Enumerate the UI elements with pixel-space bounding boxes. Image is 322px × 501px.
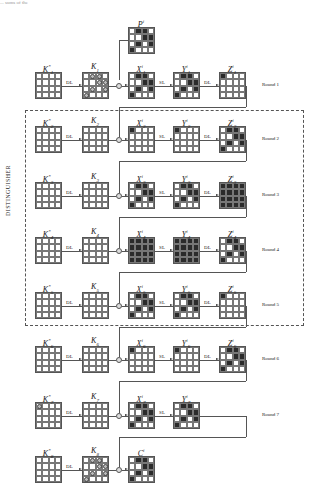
- grid-cell: [193, 202, 199, 208]
- grid-cell: [193, 146, 199, 152]
- y-label-4: Yi4: [171, 228, 201, 242]
- x-label-4: Xi4: [126, 228, 156, 242]
- grid-cell: [193, 312, 199, 318]
- grid-cell: [148, 92, 154, 98]
- round-label-3: Round 3: [262, 192, 279, 197]
- k-label-7: K7: [80, 393, 110, 405]
- grid-cell: [239, 257, 245, 263]
- k-grid-3: [82, 182, 109, 209]
- x-label-1: Xi1: [126, 63, 156, 77]
- kstar-label-5: K*5: [33, 283, 63, 297]
- kstar-label-2: K*2: [33, 117, 63, 131]
- feedback-line: [119, 327, 246, 328]
- ciphertext-label: Ci: [126, 447, 156, 458]
- dl-op-label: DL: [204, 300, 211, 305]
- k-label-2: K2: [80, 117, 110, 129]
- grid-cell: [102, 422, 108, 428]
- feedback-line: [119, 272, 246, 273]
- kstar-label-8: K*8: [33, 447, 63, 461]
- feedback-line: [246, 196, 247, 218]
- feedback-line: [119, 107, 120, 137]
- feedback-line: [119, 437, 120, 467]
- feedback-line: [119, 217, 120, 248]
- sl-op-label: SL: [159, 134, 165, 139]
- grid-cell: [148, 476, 154, 482]
- x-label-2: Xi2: [126, 117, 156, 131]
- plaintext-grid: [128, 27, 155, 54]
- grid-cell: [55, 422, 61, 428]
- grid-cell: [55, 202, 61, 208]
- key-line: [109, 196, 116, 197]
- y-label-6: Yi6: [171, 337, 201, 351]
- dl-op-label: DL: [66, 354, 73, 359]
- feedback-line: [246, 360, 247, 382]
- z-label-5: Zi5: [217, 283, 247, 297]
- k-grid-7: [82, 402, 109, 429]
- grid-cell: [102, 146, 108, 152]
- z-label-4: Zi4: [217, 228, 247, 242]
- grid-cell: [193, 366, 199, 372]
- round-label-5: Round 5: [262, 302, 279, 307]
- grid-cell: [55, 92, 61, 98]
- grid-cell: [239, 92, 245, 98]
- k-label-3: K3: [80, 173, 110, 185]
- grid-cell: [102, 202, 108, 208]
- dl-op-label: DL: [66, 464, 73, 469]
- grid-cell: [148, 47, 154, 53]
- feedback-line: [119, 437, 246, 438]
- feedback-line: [119, 381, 246, 382]
- feedback-line: [246, 86, 247, 108]
- grid-cell: [102, 92, 108, 98]
- kstar-label-7: K*7: [33, 393, 63, 407]
- grid-cell: [193, 257, 199, 263]
- feedback-line: [246, 251, 247, 273]
- grid-cell: [239, 202, 245, 208]
- sl-op-label: SL: [159, 190, 165, 195]
- k-label-8: K8: [80, 447, 110, 459]
- k-grid-2: [82, 126, 109, 153]
- key-line: [109, 470, 116, 471]
- k-label-1: K1: [80, 63, 110, 75]
- top-text-fragment: ... sums of the: [0, 0, 28, 5]
- sl-op-label: SL: [159, 300, 165, 305]
- z-label-1: Zi1: [217, 63, 247, 77]
- plaintext-label: Pi: [126, 18, 156, 29]
- feedback-line: [246, 306, 247, 328]
- grid-cell: [55, 312, 61, 318]
- key-line: [109, 140, 116, 141]
- feedback-line: [119, 107, 246, 108]
- key-line: [109, 416, 116, 417]
- sl-op-label: SL: [159, 245, 165, 250]
- feedback-line: [246, 140, 247, 162]
- x-label-7: Xi7: [126, 393, 156, 407]
- dl-op-label: DL: [66, 134, 73, 139]
- grid-cell: [239, 146, 245, 152]
- grid-cell: [193, 92, 199, 98]
- grid-cell: [102, 366, 108, 372]
- sl-op-label: SL: [159, 354, 165, 359]
- k-label-5: K5: [80, 283, 110, 295]
- distinguisher-diagram: ... sums of the DISTINGUISHER PiK*1DLK1X…: [0, 0, 322, 501]
- z-label-6: Zi6: [217, 337, 247, 351]
- y-label-1: Yi1: [171, 63, 201, 77]
- grid-cell: [102, 476, 108, 482]
- grid-cell: [148, 312, 154, 318]
- key-line: [109, 360, 116, 361]
- x-label-5: Xi5: [126, 283, 156, 297]
- round-label-4: Round 4: [262, 247, 279, 252]
- kstar-label-4: K*4: [33, 228, 63, 242]
- dl-op-label: DL: [66, 80, 73, 85]
- feedback-line: [119, 272, 120, 303]
- grid-cell: [55, 257, 61, 263]
- k-grid-6: [82, 346, 109, 373]
- ciphertext-grid: [128, 456, 155, 483]
- x-label-3: Xi3: [126, 173, 156, 187]
- dl-op-label: DL: [66, 245, 73, 250]
- k-grid-5: [82, 292, 109, 319]
- round-label-6: Round 6: [262, 356, 279, 361]
- round-label-7: Round 7: [262, 412, 279, 417]
- dl-op-label: DL: [204, 134, 211, 139]
- round-out-line: [200, 416, 246, 417]
- y-label-3: Yi3: [171, 173, 201, 187]
- grid-cell: [55, 366, 61, 372]
